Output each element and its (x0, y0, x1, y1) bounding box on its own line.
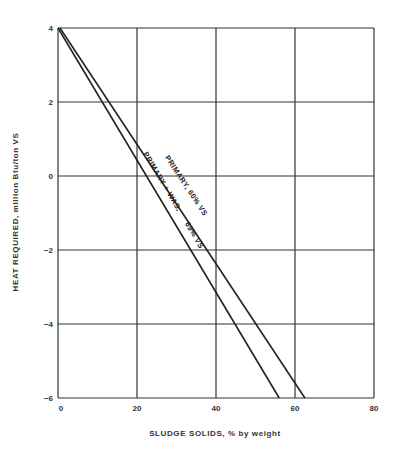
x-tick-label: 0 (59, 404, 64, 413)
series-line (58, 28, 279, 398)
series-labels: PRIMARY, 60% VSPRIMARY + WAS,69% VS (141, 150, 209, 250)
series-lines (58, 28, 305, 398)
x-axis-title: SLUDGE SOLIDS, % by weight (149, 429, 281, 438)
y-tick-label: 2 (49, 98, 54, 107)
y-tick-label: 0 (49, 172, 54, 181)
y-tick-label: −4 (44, 320, 54, 329)
x-tick-label: 40 (212, 404, 221, 413)
y-tick-label: 4 (49, 24, 54, 33)
tick-labels: 020406080420−2−4−6 (44, 24, 379, 413)
x-tick-label: 20 (133, 404, 142, 413)
x-tick-label: 60 (291, 404, 300, 413)
series-line (60, 28, 305, 398)
x-tick-label: 80 (370, 404, 379, 413)
chart: 020406080420−2−4−6 PRIMARY, 60% VSPRIMAR… (0, 0, 395, 452)
y-tick-label: −2 (44, 246, 54, 255)
y-axis-title: HEAT REQUIRED, million Btu/ton VS (11, 133, 20, 292)
grid (58, 28, 374, 398)
y-tick-label: −6 (44, 394, 54, 403)
